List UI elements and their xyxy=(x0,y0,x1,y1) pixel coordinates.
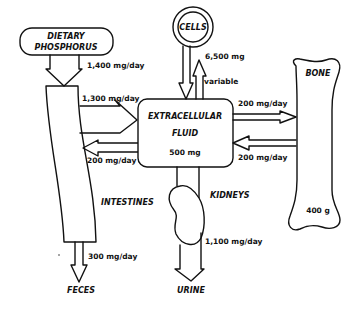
bone-to-ecf-arrow xyxy=(233,136,296,150)
flow-ecf-bone: 200 mg/day xyxy=(238,99,287,108)
diet-to-intestine-arrow xyxy=(46,55,82,86)
dietary-label-1: DIETARY xyxy=(47,32,86,41)
flow-intestine-ecf: 1,300 mg/day xyxy=(82,94,139,103)
intestine-to-ecf-arrow xyxy=(80,100,137,133)
flow-diet-intestine: 1,400 mg/day xyxy=(87,61,144,70)
bone-node: BONE 400 g xyxy=(289,59,340,230)
ecf-label-2: FLUID xyxy=(172,129,199,138)
bone-label: BONE xyxy=(305,69,331,78)
intestines-label: INTESTINES xyxy=(101,198,154,207)
bone-amount: 400 g xyxy=(306,206,330,215)
dietary-phosphorus-node: DIETARY PHOSPHORUS xyxy=(20,28,113,55)
kidneys-label: KIDNEYS xyxy=(210,191,250,200)
flow-ecf-intestine: 200 mg/day xyxy=(87,156,136,165)
ecf-to-bone-arrow xyxy=(233,111,296,123)
ecf-to-intestine-arrow xyxy=(83,140,138,156)
ecf-label-1: EXTRACELLULAR xyxy=(148,112,222,121)
flow-bone-ecf: 200 mg/day xyxy=(238,153,287,162)
urine-label: URINE xyxy=(177,286,205,295)
cells-amount: 6,500 mg xyxy=(205,52,245,61)
flow-intestine-feces: 300 mg/day xyxy=(88,252,137,261)
ecf-amount: 500 mg xyxy=(169,148,200,157)
flow-cells-variable: variable xyxy=(204,77,238,86)
feces-label: FECES xyxy=(67,286,95,295)
cells-to-ecf-arrow xyxy=(179,46,193,99)
flow-kidney-urine: 1,100 mg/day xyxy=(205,237,262,246)
cells-label: CELLS xyxy=(179,23,207,32)
intestine-to-feces-arrow xyxy=(71,242,87,282)
cells-node: CELLS xyxy=(173,7,213,47)
dietary-label-2: PHOSPHORUS xyxy=(35,43,98,52)
extracellular-fluid-node: EXTRACELLULAR FLUID 500 mg xyxy=(138,99,233,167)
phosphorus-balance-diagram: DIETARY PHOSPHORUS 1,400 mg/day INTESTIN… xyxy=(0,0,359,311)
stray-dot xyxy=(58,254,60,256)
